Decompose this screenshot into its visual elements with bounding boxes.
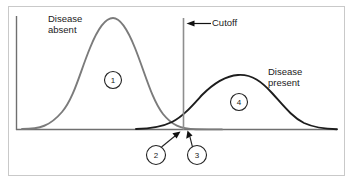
callout-2 — [147, 132, 181, 165]
curve-disease-absent — [22, 18, 222, 129]
cutoff-arrow-icon — [187, 20, 212, 26]
callout-1 — [105, 72, 122, 89]
callout-3 — [186, 131, 206, 165]
figure-root: Disease absent Disease present Cutoff 1 … — [0, 0, 355, 188]
distribution-plot — [0, 0, 355, 188]
callout-4 — [231, 94, 248, 111]
